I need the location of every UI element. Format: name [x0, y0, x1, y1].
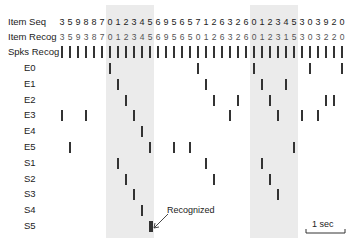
scale-bar-label: 1 sec	[312, 219, 334, 229]
scale-bar	[0, 0, 361, 249]
spike-raster-figure: Item Seq Item Recog Spks Recog 359887012…	[0, 0, 361, 249]
